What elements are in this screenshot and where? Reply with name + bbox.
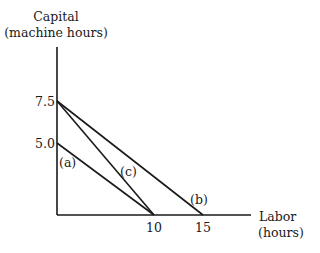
y-tick-5-0: 5.0 [35, 136, 55, 151]
line-c-label: (c) [120, 164, 137, 179]
x-tick-10: 10 [146, 220, 162, 235]
y-axis-title-line2: (machine hours) [4, 25, 108, 40]
line-a-label: (a) [59, 155, 76, 170]
line-a [57, 143, 154, 215]
x-axis-title-line2: (hours) [258, 225, 304, 240]
y-tick-7-5: 7.5 [35, 94, 55, 109]
line-b-label: (b) [190, 192, 208, 207]
y-axis-title-line1: Capital [30, 9, 82, 24]
budget-line-chart: Capital (machine hours) 7.5 5.0 10 15 La… [0, 0, 320, 253]
x-tick-15: 15 [195, 220, 211, 235]
x-axis-title-line1: Labor [259, 209, 296, 224]
